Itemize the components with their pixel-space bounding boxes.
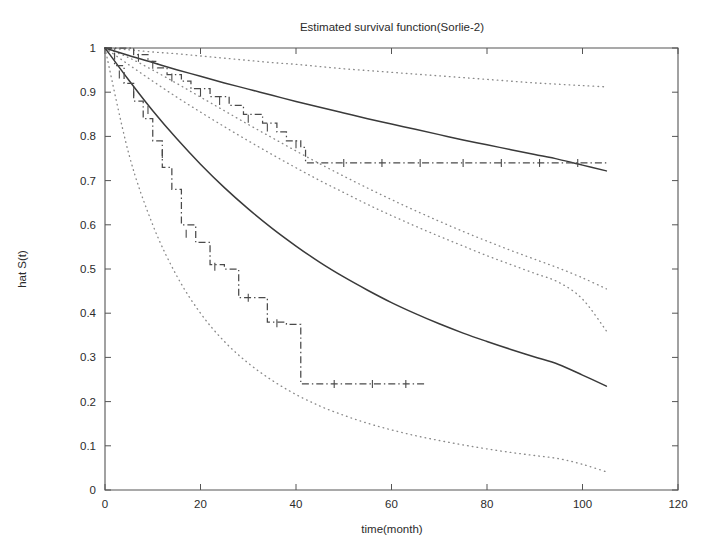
x-tick-label: 40 [290,498,303,510]
x-tick-label: 60 [385,498,398,510]
y-tick-label: 0.2 [80,396,96,408]
y-axis-label: hat S(t) [16,250,28,288]
x-tick-label: 100 [573,498,592,510]
y-tick-label: 0.5 [80,263,96,275]
y-tick-label: 0.7 [80,175,96,187]
y-tick-label: 0.8 [80,130,96,142]
y-tick-label: 0.1 [80,440,96,452]
y-tick-label: 1 [90,42,96,54]
x-axis-label: time(month) [361,523,423,535]
x-tick-label: 120 [668,498,687,510]
x-tick-label: 20 [194,498,207,510]
page-title: Estimated survival function(Sorlie-2) [300,21,484,33]
x-tick-label: 0 [102,498,108,510]
y-tick-label: 0 [90,484,96,496]
y-tick-label: 0.6 [80,219,96,231]
y-tick-label: 0.3 [80,351,96,363]
figure-background [0,0,724,557]
x-tick-label: 80 [481,498,494,510]
y-tick-label: 0.9 [80,86,96,98]
survival-plot-figure: Estimated survival function(Sorlie-2) 02… [0,0,724,557]
chart-canvas: Estimated survival function(Sorlie-2) 02… [0,0,724,557]
y-tick-label: 0.4 [80,307,97,319]
